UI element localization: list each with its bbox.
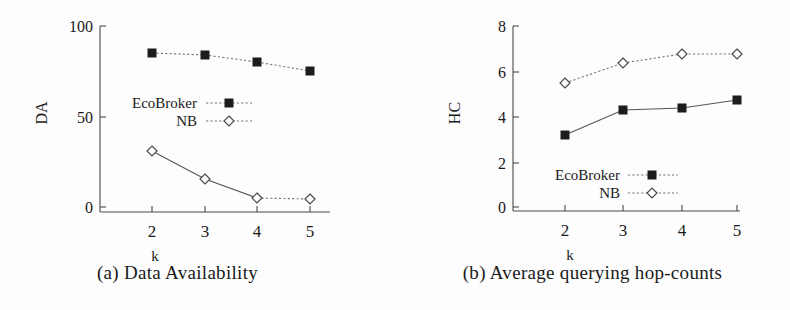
chart-a-canvas: 100 50 0 2 3 4 5 [0,0,395,260]
figure-caption-b: (b) Average querying hop-counts [395,262,790,284]
series-b-ecobroker-point [678,104,686,112]
chart-a-x-ticklabels: 2 3 4 5 [148,222,315,241]
y-axis-label-b: HC [446,83,464,143]
legend-a-filled-square-marker-icon [225,99,233,107]
chart-a-legend: EcoBroker NB [132,95,252,129]
chart-b-y-ticklabels: 8 6 4 2 0 [498,18,506,216]
series-a-ecobroker-point [306,67,314,75]
y-ticklabel-a-1: 50 [77,109,93,126]
y-ticklabel-b-0: 0 [498,199,506,216]
series-a-ecobroker-point [201,51,209,59]
series-b-ecobroker-line [565,100,737,135]
figure-caption-a: (a) Data Availability [0,262,375,284]
x-ticklabel-b-0: 2 [561,221,570,240]
series-a-ecobroker [148,49,314,75]
chart-b-x-ticklabels: 2 3 4 5 [561,221,742,240]
legend-a-label-nb: NB [176,113,197,129]
legend-b-filled-square-marker-icon [648,171,656,179]
legend-b-label-ecobroker: EcoBroker [555,167,620,183]
series-a-ecobroker-point [148,49,156,57]
x-ticklabel-b-2: 4 [678,221,687,240]
x-ticklabel-a-3: 5 [306,222,315,241]
series-b-ecobroker-point [561,131,569,139]
y-ticklabel-a-2: 100 [69,18,93,35]
series-a-nb-point [200,174,210,184]
y-axis-label-a: DA [33,83,51,143]
y-ticklabel-b-3: 6 [498,64,506,81]
figure-data-availability: 100 50 0 2 3 4 5 [0,0,395,310]
series-b-nb-point [560,78,570,88]
series-a-ecobroker-point [253,58,261,66]
series-b-nb-point [618,58,628,68]
series-b-nb-point [677,49,687,59]
y-ticklabel-b-1: 2 [498,155,506,172]
chart-b-axes [513,26,740,211]
series-a-ecobroker-line [152,53,310,71]
x-ticklabel-b-3: 5 [733,221,742,240]
y-ticklabel-b-2: 4 [498,109,506,126]
legend-a-label-ecobroker: EcoBroker [132,95,197,111]
series-b-ecobroker-point [733,96,741,104]
chart-b-legend: EcoBroker NB [555,167,678,201]
y-ticklabel-b-4: 8 [498,18,506,35]
series-b-ecobroker [561,96,741,139]
figure-hop-counts: 8 6 4 2 0 2 3 4 5 [395,0,790,310]
series-b-nb-line [565,54,737,83]
series-b-nb-point [732,49,742,59]
x-ticklabel-b-1: 3 [619,221,628,240]
y-ticklabel-a-0: 0 [85,199,93,216]
series-b-nb [560,49,742,88]
series-a-nb-line-tail [257,198,310,199]
series-a-nb-point [305,194,315,204]
x-ticklabel-a-0: 2 [148,222,157,241]
series-b-ecobroker-point [619,106,627,114]
x-ticklabel-a-1: 3 [201,222,210,241]
legend-a-open-diamond-marker-icon [224,116,234,126]
series-a-nb-point [252,193,262,203]
chart-a-y-ticklabels: 100 50 0 [69,18,93,216]
legend-b-label-nb: NB [599,185,620,201]
x-ticklabel-a-2: 4 [253,222,262,241]
series-a-nb [147,146,315,204]
legend-b-open-diamond-marker-icon [647,188,657,198]
series-a-nb-point [147,146,157,156]
chart-a-axes [100,26,330,212]
